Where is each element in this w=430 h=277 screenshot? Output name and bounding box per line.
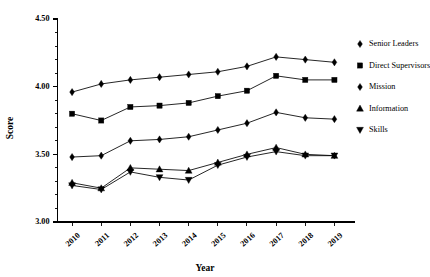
- x-tick-label: 2016: [239, 231, 257, 249]
- marker-diamond: [128, 137, 133, 144]
- legend-item-information[interactable]: Information: [357, 104, 409, 113]
- y-tick-label: 4.50: [35, 14, 49, 23]
- marker-diamond: [274, 109, 279, 116]
- legend-item-senior-leaders[interactable]: Senior Leaders: [358, 39, 419, 48]
- legend-item-direct-supervisors[interactable]: Direct Supervisors: [357, 61, 430, 70]
- marker-diamond: [70, 88, 75, 95]
- marker-diamond: [186, 71, 191, 78]
- marker-diamond: [99, 80, 104, 87]
- series-line: [72, 112, 334, 157]
- data-series-layer: [69, 53, 338, 193]
- series-information: [69, 144, 338, 191]
- marker-triangle-down: [357, 127, 364, 133]
- marker-diamond: [358, 40, 363, 47]
- series-line: [72, 57, 334, 92]
- marker-diamond: [157, 74, 162, 81]
- legend-label: Information: [369, 104, 408, 113]
- x-tick-label: 2015: [209, 231, 227, 249]
- marker-square: [303, 77, 308, 82]
- chart-legend: Senior LeadersDirect SupervisorsMissionI…: [357, 39, 430, 134]
- chart-svg: 3.003.504.004.50 20102011201220132014201…: [0, 0, 430, 277]
- marker-diamond: [99, 152, 104, 159]
- marker-square: [69, 111, 74, 116]
- marker-square: [99, 118, 104, 123]
- legend-label: Mission: [369, 82, 395, 91]
- x-tick-label: 2014: [180, 231, 198, 249]
- series-direct-supervisors: [69, 73, 337, 123]
- y-axis-tick-labels: 3.003.504.004.50: [35, 14, 49, 226]
- y-tick-label: 4.00: [35, 82, 49, 91]
- series-senior-leaders: [70, 53, 337, 95]
- legend-label: Direct Supervisors: [369, 61, 430, 70]
- marker-square: [244, 88, 249, 93]
- x-tick-label: 2019: [326, 231, 344, 249]
- y-tick-label: 3.50: [35, 150, 49, 159]
- x-tick-label: 2011: [93, 231, 111, 248]
- marker-triangle-down: [185, 177, 192, 183]
- legend-label: Senior Leaders: [369, 39, 418, 48]
- x-axis-tick-labels: 2010201120122013201420152016201720182019: [64, 231, 345, 249]
- marker-triangle-up: [357, 105, 364, 111]
- x-tick-label: 2012: [122, 231, 140, 249]
- marker-diamond: [303, 114, 308, 121]
- marker-diamond: [186, 133, 191, 140]
- marker-diamond: [128, 76, 133, 83]
- chart-figure: 3.003.504.004.50 20102011201220132014201…: [0, 0, 430, 277]
- marker-diamond: [274, 53, 279, 60]
- x-tick-label: 2017: [268, 231, 286, 249]
- marker-diamond: [332, 59, 337, 66]
- y-tick-label: 3.00: [35, 217, 49, 226]
- x-axis-title: Year: [196, 263, 216, 273]
- marker-square: [357, 63, 362, 68]
- y-axis-ticks: [53, 19, 58, 222]
- marker-square: [128, 104, 133, 109]
- y-axis-title: Score: [5, 117, 15, 140]
- x-tick-label: 2018: [297, 231, 315, 249]
- legend-label: Skills: [369, 125, 388, 134]
- series-line: [72, 148, 334, 189]
- marker-diamond: [303, 56, 308, 63]
- marker-diamond: [215, 126, 220, 133]
- legend-item-mission[interactable]: Mission: [358, 82, 396, 91]
- marker-square: [332, 77, 337, 82]
- marker-diamond: [70, 153, 75, 160]
- x-axis-ticks: [72, 222, 334, 226]
- marker-square: [157, 103, 162, 108]
- marker-diamond: [358, 83, 363, 90]
- marker-diamond: [245, 120, 250, 127]
- series-skills: [69, 149, 338, 193]
- legend-item-skills[interactable]: Skills: [357, 125, 388, 134]
- x-tick-label: 2010: [64, 231, 82, 249]
- marker-diamond: [245, 63, 250, 70]
- marker-square: [274, 73, 279, 78]
- marker-square: [186, 100, 191, 105]
- x-tick-label: 2013: [151, 231, 169, 249]
- marker-square: [215, 94, 220, 99]
- marker-diamond: [215, 68, 220, 75]
- marker-triangle-down: [214, 162, 221, 168]
- marker-diamond: [332, 116, 337, 123]
- series-line: [72, 152, 334, 190]
- marker-diamond: [157, 136, 162, 143]
